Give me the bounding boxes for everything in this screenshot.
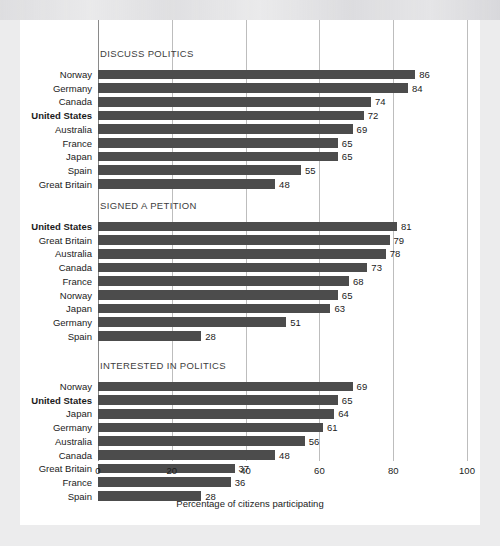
bar-row: Australia56 <box>20 436 480 450</box>
bar-value-label: 65 <box>342 290 353 301</box>
page-background-noise <box>0 0 500 20</box>
bar-value-label: 51 <box>290 317 301 328</box>
bar <box>98 124 353 134</box>
bar-value-label: 73 <box>371 262 382 273</box>
bar-category-label: United States <box>20 110 92 121</box>
chart-panel: DISCUSS POLITICSNorway86Germany84Canada7… <box>20 20 480 525</box>
bar-row: Canada73 <box>20 262 480 276</box>
x-tick-label-0: 0 <box>95 465 100 476</box>
bar-row: France65 <box>20 138 480 152</box>
bar <box>98 409 334 419</box>
bar-value-label: 28 <box>205 331 216 342</box>
bar-category-label: Spain <box>20 331 92 342</box>
section-title: DISCUSS POLITICS <box>100 48 194 59</box>
bar-category-label: France <box>20 276 92 287</box>
bar <box>98 152 338 162</box>
bar-value-label: 64 <box>338 408 349 419</box>
bar-value-label: 55 <box>305 165 316 176</box>
bar <box>98 111 364 121</box>
bar-row: Japan65 <box>20 151 480 165</box>
bar-row: United States65 <box>20 395 480 409</box>
bar-category-label: Canada <box>20 450 92 461</box>
bar <box>98 222 397 232</box>
bar-value-label: 79 <box>394 235 405 246</box>
bar-value-label: 36 <box>235 477 246 488</box>
bar-category-label: Canada <box>20 96 92 107</box>
bar-row: Norway69 <box>20 381 480 395</box>
bar-value-label: 65 <box>342 138 353 149</box>
bar-category-label: Spain <box>20 165 92 176</box>
x-tick-label-80: 80 <box>388 465 399 476</box>
section-title: SIGNED A PETITION <box>100 200 197 211</box>
bar-category-label: France <box>20 138 92 149</box>
bar-category-label: Great Britain <box>20 179 92 190</box>
bar-category-label: Norway <box>20 381 92 392</box>
bar-row: United States72 <box>20 110 480 124</box>
bar-value-label: 61 <box>327 422 338 433</box>
bar <box>98 83 408 93</box>
bar-value-label: 63 <box>334 303 345 314</box>
x-tick-label-20: 20 <box>167 465 178 476</box>
bar-value-label: 65 <box>342 395 353 406</box>
bar-value-label: 86 <box>419 69 430 80</box>
bar-category-label: United States <box>20 221 92 232</box>
x-tick-label-60: 60 <box>314 465 325 476</box>
bar-row: France68 <box>20 276 480 290</box>
bar <box>98 97 371 107</box>
bar-row: Spain28 <box>20 331 480 345</box>
bar-row: Spain55 <box>20 165 480 179</box>
bar <box>98 179 275 189</box>
bar-category-label: Canada <box>20 262 92 273</box>
bar-category-label: Japan <box>20 303 92 314</box>
bar-value-label: 48 <box>279 450 290 461</box>
bar-row: Canada74 <box>20 96 480 110</box>
bar-category-label: Germany <box>20 422 92 433</box>
bar-row: France36 <box>20 477 480 491</box>
bar-category-label: Japan <box>20 408 92 419</box>
bar-category-label: United States <box>20 395 92 406</box>
bar-row: Great Britain79 <box>20 235 480 249</box>
bar-row: Norway65 <box>20 290 480 304</box>
bar <box>98 317 286 327</box>
bar <box>98 165 301 175</box>
bar <box>98 477 231 487</box>
bar <box>98 290 338 300</box>
bar-value-label: 84 <box>412 83 423 94</box>
bar <box>98 304 330 314</box>
bar-row: Germany84 <box>20 83 480 97</box>
bar-row: United States81 <box>20 221 480 235</box>
bar-value-label: 56 <box>309 436 320 447</box>
bar-category-label: Norway <box>20 290 92 301</box>
bar-row: Japan64 <box>20 408 480 422</box>
x-tick-label-100: 100 <box>459 465 475 476</box>
bar-row: Norway86 <box>20 69 480 83</box>
bar-row: Australia69 <box>20 124 480 138</box>
bar <box>98 70 415 80</box>
bar-value-label: 72 <box>368 110 379 121</box>
bar <box>98 395 338 405</box>
bar-category-label: Great Britain <box>20 463 92 474</box>
bar <box>98 138 338 148</box>
bar-value-label: 69 <box>357 124 368 135</box>
bar <box>98 436 305 446</box>
bar-category-label: Norway <box>20 69 92 80</box>
bar-row: Great Britain48 <box>20 179 480 193</box>
bar-value-label: 81 <box>401 221 412 232</box>
bar-category-label: France <box>20 477 92 488</box>
bar-row: Germany61 <box>20 422 480 436</box>
bar-row: Canada48 <box>20 450 480 464</box>
bar-value-label: 48 <box>279 179 290 190</box>
x-axis-label: Percentage of citizens participating <box>20 498 480 509</box>
bar <box>98 423 323 433</box>
bar-value-label: 69 <box>357 381 368 392</box>
bar-value-label: 68 <box>353 276 364 287</box>
bar <box>98 331 201 341</box>
bar <box>98 235 390 245</box>
bar-value-label: 65 <box>342 151 353 162</box>
bar-row: Australia78 <box>20 248 480 262</box>
bar-category-label: Japan <box>20 151 92 162</box>
bar-row: Germany51 <box>20 317 480 331</box>
bar-category-label: Australia <box>20 124 92 135</box>
bar-category-label: Australia <box>20 436 92 447</box>
bar-category-label: Germany <box>20 83 92 94</box>
